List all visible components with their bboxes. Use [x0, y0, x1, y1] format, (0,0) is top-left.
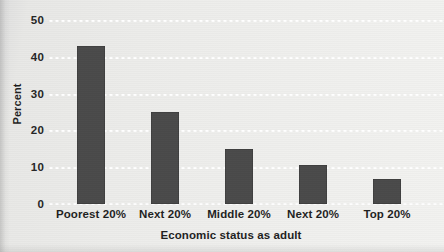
- bar-chart: 50 40 30 20 10 0 Percent Poorest 20% Nex…: [0, 0, 444, 252]
- bar-next-20-b: [299, 165, 327, 204]
- y-tick-label: 40: [0, 52, 44, 64]
- y-tick-label: 10: [0, 162, 44, 174]
- bars-layer: [48, 20, 444, 204]
- bar-top-20: [373, 179, 401, 204]
- bottom-edge-shadow: [0, 244, 444, 252]
- y-tick-label: 0: [0, 199, 44, 211]
- x-axis-tick-labels: Poorest 20% Next 20% Middle 20% Next 20%…: [48, 208, 444, 226]
- bar-poorest-20: [77, 46, 105, 204]
- y-axis-title: Percent: [11, 74, 23, 134]
- x-axis-title: Economic status as adult: [48, 229, 414, 241]
- y-tick-label: 50: [0, 15, 44, 27]
- x-tick-label-top-20: Top 20%: [337, 208, 437, 220]
- bar-next-20-a: [151, 112, 179, 204]
- bar-middle-20: [225, 149, 253, 204]
- plot-area: [48, 20, 444, 204]
